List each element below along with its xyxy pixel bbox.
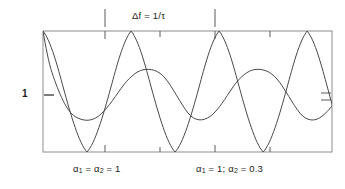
caption-right-eq2: = 0.3 — [238, 163, 263, 174]
caption-full-modulation: α1 = α2 = 1 — [73, 164, 121, 174]
curve-full-modulation — [43, 31, 338, 152]
caption-right-eq1: = 1; — [206, 163, 229, 174]
bottom-axis-ticks — [105, 145, 270, 152]
caption-left-eq1: = — [83, 163, 94, 174]
y-axis-unity-label: 1 — [22, 89, 28, 99]
curve-partial-modulation — [43, 31, 338, 120]
plot-frame — [43, 31, 332, 152]
caption-left-eq2: = 1 — [104, 163, 121, 174]
caption-partial-modulation: α1 = 1; α2 = 0.3 — [196, 164, 263, 174]
figure-root: Δf = 1/τ 1 α1 = α2 = 1 α1 = 1; α2 = 0.3 — [0, 0, 345, 189]
period-spacing-label: Δf = 1/τ — [132, 11, 165, 21]
interference-plot — [0, 0, 345, 189]
